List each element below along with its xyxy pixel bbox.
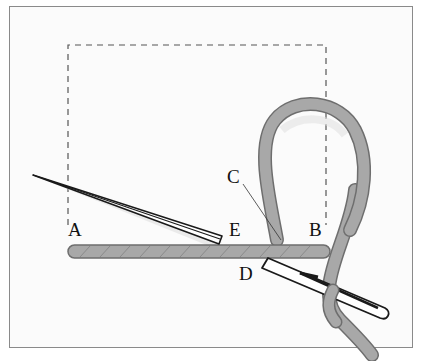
stitch-illustration xyxy=(0,0,426,361)
label-d: D xyxy=(239,264,253,283)
label-b: B xyxy=(309,220,322,239)
stitch-bar xyxy=(68,245,330,258)
label-e: E xyxy=(229,220,241,239)
needle-left xyxy=(33,175,222,244)
label-c: C xyxy=(227,167,240,186)
label-a: A xyxy=(68,220,82,239)
